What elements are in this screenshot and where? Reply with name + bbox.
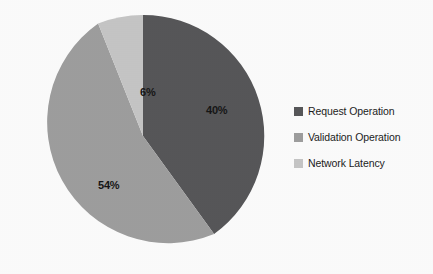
slice-value-label-request-operation: 40% (206, 104, 227, 116)
legend-item-validation-operation[interactable]: Validation Operation (294, 124, 430, 150)
legend-item-network-latency[interactable]: Network Latency (294, 150, 430, 176)
legend-swatch-icon-validation-operation (294, 133, 303, 142)
legend-label-validation-operation: Validation Operation (308, 131, 400, 143)
pie-chart: 40% 54% 6% Request Operation Validation … (0, 0, 433, 274)
pie-svg (21, 14, 265, 258)
legend-label-network-latency: Network Latency (308, 157, 385, 169)
chart-legend: Request Operation Validation Operation N… (294, 98, 430, 176)
legend-item-request-operation[interactable]: Request Operation (294, 98, 430, 124)
pie-graphic: 40% 54% 6% (21, 14, 265, 258)
legend-swatch-icon-network-latency (294, 159, 303, 168)
legend-label-request-operation: Request Operation (308, 105, 394, 117)
slice-value-label-network-latency: 6% (140, 86, 156, 98)
slice-value-label-validation-operation: 54% (98, 179, 119, 191)
legend-swatch-icon-request-operation (294, 107, 303, 116)
